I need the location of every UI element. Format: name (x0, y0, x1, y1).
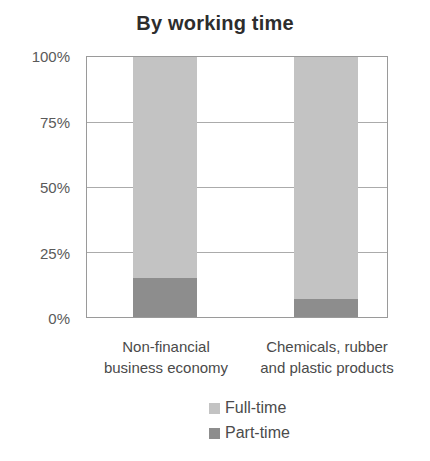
category-label-line: business economy (76, 357, 256, 378)
category-label-0: Non-financialbusiness economy (76, 336, 256, 378)
bar-0-segment-part-time (133, 278, 197, 317)
legend-label: Part-time (225, 424, 290, 442)
bar-0-segment-full-time (133, 57, 197, 278)
legend-item-full-time: Full-time (209, 399, 290, 417)
y-tick-label: 50% (40, 179, 70, 196)
bar-1-segment-part-time (294, 299, 358, 317)
bar-0 (133, 57, 197, 317)
plot-area (86, 56, 388, 318)
category-label-line: Chemicals, rubber (237, 336, 417, 357)
chart-title: By working time (0, 12, 430, 35)
category-label-1: Chemicals, rubberand plastic products (237, 336, 417, 378)
legend-swatch-full-time (209, 403, 220, 414)
bar-1-segment-full-time (294, 57, 358, 299)
working-time-chart: By working time 100%75%50%25%0% Non-fina… (0, 0, 430, 461)
y-tick-label: 25% (40, 244, 70, 261)
legend-swatch-part-time (209, 428, 220, 439)
bar-1 (294, 57, 358, 317)
category-label-line: Non-financial (76, 336, 256, 357)
legend-label: Full-time (225, 399, 286, 417)
y-tick-label: 0% (48, 310, 70, 327)
y-axis: 100%75%50%25%0% (0, 56, 78, 318)
y-tick-label: 75% (40, 113, 70, 130)
category-label-line: and plastic products (237, 357, 417, 378)
y-tick-label: 100% (32, 48, 70, 65)
legend-item-part-time: Part-time (209, 424, 290, 442)
legend: Full-timePart-time (209, 399, 290, 449)
